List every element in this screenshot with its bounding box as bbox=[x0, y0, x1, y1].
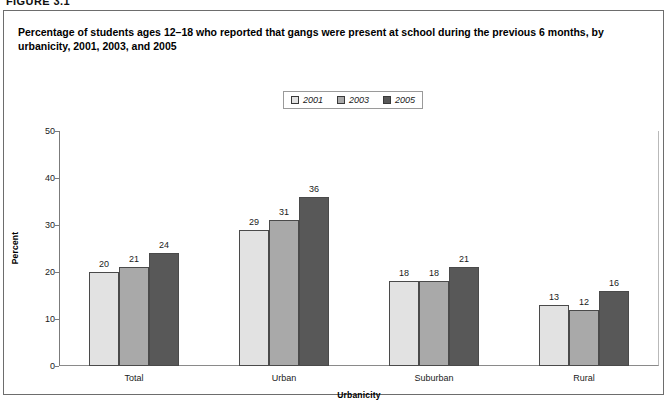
legend-item-2003: 2003 bbox=[337, 95, 369, 105]
y-axis-tick-mark bbox=[55, 319, 59, 320]
figure-number: FIGURE 3.1 bbox=[6, 0, 70, 7]
x-axis-category-label: Total bbox=[124, 373, 143, 383]
bar-suburban-2001: 18 bbox=[389, 281, 419, 366]
bar-urban-2001: 29 bbox=[239, 230, 269, 366]
bar-group-suburban: 181821Suburban bbox=[389, 131, 479, 366]
y-axis-tick-label: 20 bbox=[33, 268, 55, 277]
figure-panel: Percentage of students ages 12–18 who re… bbox=[3, 10, 664, 395]
y-axis-tick-label: 10 bbox=[33, 315, 55, 324]
bar-total-2005: 24 bbox=[149, 253, 179, 366]
y-axis-tick-label: 0 bbox=[33, 362, 55, 371]
bar-group-bars: 293136 bbox=[239, 131, 329, 366]
bar-rural-2001: 13 bbox=[539, 305, 569, 366]
bar-value-label: 36 bbox=[309, 185, 319, 194]
bar-group-rural: 131216Rural bbox=[539, 131, 629, 366]
legend-label: 2005 bbox=[395, 95, 415, 105]
legend-item-2001: 2001 bbox=[291, 95, 323, 105]
x-axis-category-label: Rural bbox=[573, 373, 595, 383]
bar-value-label: 12 bbox=[579, 298, 589, 307]
bar-value-label: 18 bbox=[399, 269, 409, 278]
y-axis-tick-mark bbox=[55, 272, 59, 273]
y-axis-tick-label: 40 bbox=[33, 174, 55, 183]
y-axis-tick-mark bbox=[55, 366, 59, 367]
legend-swatch-icon bbox=[291, 96, 299, 104]
y-axis-tick-mark bbox=[55, 131, 59, 132]
bar-value-label: 24 bbox=[159, 241, 169, 250]
y-axis-tick-mark bbox=[55, 178, 59, 179]
legend-swatch-icon bbox=[383, 96, 391, 104]
bar-rural-2003: 12 bbox=[569, 310, 599, 366]
bar-value-label: 13 bbox=[549, 293, 559, 302]
bar-total-2003: 21 bbox=[119, 267, 149, 366]
bar-group-urban: 293136Urban bbox=[239, 131, 329, 366]
x-axis-label: Urbanicity bbox=[59, 390, 659, 400]
bar-urban-2005: 36 bbox=[299, 197, 329, 366]
bar-value-label: 20 bbox=[99, 260, 109, 269]
figure-caption: Percentage of students ages 12–18 who re… bbox=[18, 25, 650, 53]
bar-value-label: 29 bbox=[249, 218, 259, 227]
bar-urban-2003: 31 bbox=[269, 220, 299, 366]
bar-suburban-2005: 21 bbox=[449, 267, 479, 366]
bar-suburban-2003: 18 bbox=[419, 281, 449, 366]
bar-group-bars: 181821 bbox=[389, 131, 479, 366]
legend-label: 2001 bbox=[303, 95, 323, 105]
bar-rural-2005: 16 bbox=[599, 291, 629, 366]
y-axis-label: Percent bbox=[10, 213, 20, 283]
bar-total-2001: 20 bbox=[89, 272, 119, 366]
legend-swatch-icon bbox=[337, 96, 345, 104]
bar-value-label: 18 bbox=[429, 269, 439, 278]
bar-group-bars: 131216 bbox=[539, 131, 629, 366]
chart-legend: 200120032005 bbox=[283, 91, 423, 109]
bar-value-label: 31 bbox=[279, 208, 289, 217]
bar-value-label: 21 bbox=[129, 255, 139, 264]
bar-group-bars: 202124 bbox=[89, 131, 179, 366]
y-axis-tick-label: 50 bbox=[33, 127, 55, 136]
bar-value-label: 21 bbox=[459, 255, 469, 264]
legend-item-2005: 2005 bbox=[383, 95, 415, 105]
x-axis-category-label: Suburban bbox=[414, 373, 453, 383]
bar-group-total: 202124Total bbox=[89, 131, 179, 366]
chart-plot-area: Percent 01020304050 202124Total293136Urb… bbox=[59, 131, 659, 366]
bar-value-label: 16 bbox=[609, 279, 619, 288]
y-axis-tick-mark bbox=[55, 225, 59, 226]
y-axis-tick-label: 30 bbox=[33, 221, 55, 230]
x-axis-category-label: Urban bbox=[272, 373, 297, 383]
legend-label: 2003 bbox=[349, 95, 369, 105]
